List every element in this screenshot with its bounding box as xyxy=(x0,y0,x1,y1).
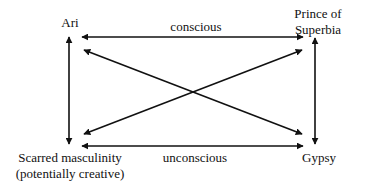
node-scarred-label-line2: (potentially creative) xyxy=(6,166,134,182)
edge-label-conscious: conscious xyxy=(160,19,232,35)
diagram-canvas: Ari Prince of Superbia conscious Scarred… xyxy=(0,0,380,188)
edge-label-unconscious: unconscious xyxy=(150,150,240,166)
node-scarred-label-line1: Scarred masculinity xyxy=(6,150,134,166)
node-ari-label: Ari xyxy=(52,15,88,31)
node-prince-label-line2: Superbia xyxy=(286,22,350,38)
node-gypsy-label: Gypsy xyxy=(296,150,342,166)
node-prince-label-line1: Prince of xyxy=(286,6,350,22)
